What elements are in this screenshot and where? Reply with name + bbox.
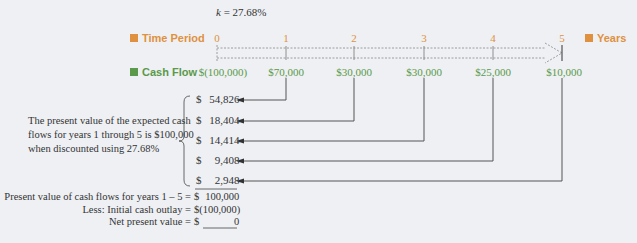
period-5: 5 xyxy=(559,32,565,44)
years-label: Years xyxy=(585,32,626,44)
green-square-icon xyxy=(130,68,138,76)
orange-square-icon xyxy=(585,34,593,42)
cash-flow-3: $30,000 xyxy=(406,66,442,78)
cash-flow-4: $25,000 xyxy=(475,66,511,78)
timeline-arrow xyxy=(217,43,562,63)
discount-rate-label: k = 27.68% xyxy=(216,6,267,18)
orange-square-icon xyxy=(130,34,138,42)
cash-flow-5: $10,000 xyxy=(546,66,582,78)
summary-pv-label: Present value of cash flows for years 1 … xyxy=(4,191,191,202)
period-1: 1 xyxy=(283,32,289,44)
period-0: 0 xyxy=(214,32,220,44)
summary-pv-value: $100,000 xyxy=(194,191,239,202)
pv-year-3: $14,414 xyxy=(196,134,240,146)
summary-npv-label: Net present value = xyxy=(109,216,191,227)
cash-flow-2: $30,000 xyxy=(336,66,372,78)
pv-year-4: $9,408 xyxy=(196,154,240,166)
period-2: 2 xyxy=(351,32,357,44)
pv-year-2: $18,404 xyxy=(196,114,240,126)
period-3: 3 xyxy=(421,32,427,44)
summary-npv-value: $0 xyxy=(194,216,239,227)
pv-year-5: $2,948 xyxy=(196,174,240,186)
cash-flow-0: $(100,000) xyxy=(199,66,248,78)
period-4: 4 xyxy=(490,32,496,44)
explanation-text: The present value of the expected cash f… xyxy=(28,114,194,156)
summary-outlay-value: $(100,000) xyxy=(194,204,239,215)
time-period-label: Time Period xyxy=(130,32,205,44)
summary-outlay-label: Less: Initial cash outlay = xyxy=(82,204,191,215)
pv-year-1: $54,826 xyxy=(196,93,240,105)
cash-flow-label: Cash Flow xyxy=(130,66,197,78)
cash-flow-1: $70,000 xyxy=(268,66,304,78)
